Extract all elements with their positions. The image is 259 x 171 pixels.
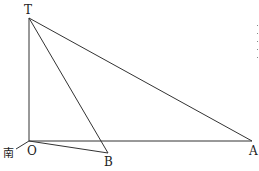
point-label-O: O [27,145,37,157]
segment-OB [29,141,108,153]
segment-TA [29,18,252,141]
geometry-diagram: T O B A 南 [0,0,259,171]
point-label-A: A [249,145,258,157]
segment-TB [29,18,108,153]
point-label-T: T [24,4,32,16]
point-label-B: B [104,156,113,168]
margin-dots [257,25,259,65]
south-direction-label: 南 [3,148,14,159]
diagram-lines [0,0,259,171]
